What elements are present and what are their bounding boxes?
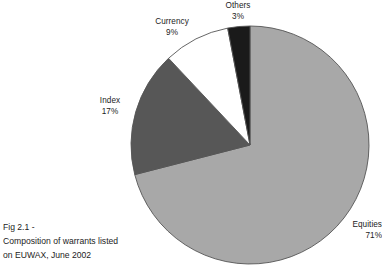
pie-label-others: Others 3% [208,1,268,22]
pie-label-currency-value: 9% [141,28,203,39]
figure-caption: Fig 2.1 - Composition of warrants listed… [3,220,153,262]
pie-slice-group [131,26,369,264]
figure-caption-line-2: Composition of warrants listed [3,234,153,248]
figure-caption-line-1: Fig 2.1 - [3,220,153,234]
pie-label-equities-name: Equities [336,220,382,231]
pie-label-index-value: 17% [84,107,136,118]
pie-label-equities-value: 71% [336,231,382,242]
pie-label-currency-name: Currency [141,17,203,28]
pie-label-equities: Equities 71% [336,220,382,241]
pie-label-index: Index 17% [84,96,136,117]
pie-label-others-name: Others [208,1,268,12]
pie-label-others-value: 3% [208,12,268,23]
pie-label-currency: Currency 9% [141,17,203,38]
figure-caption-line-3: on EUWAX, June 2002 [3,248,153,262]
pie-label-index-name: Index [84,96,136,107]
